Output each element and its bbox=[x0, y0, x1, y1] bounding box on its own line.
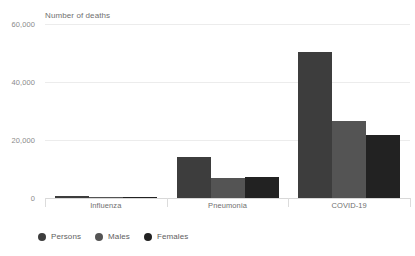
legend-label-males: Males bbox=[108, 232, 130, 241]
legend-marker-males-icon bbox=[95, 233, 103, 241]
x-label-influenza: Influenza bbox=[45, 201, 167, 210]
bar-chart: Number of deaths 020,00040,00060,000 Inf… bbox=[0, 0, 415, 256]
x-label-pneumonia: Pneumonia bbox=[167, 201, 289, 210]
x-label-covid-19: COVID-19 bbox=[288, 201, 410, 210]
bar-covid-19-persons[interactable] bbox=[298, 52, 332, 198]
legend-marker-females-icon bbox=[144, 233, 152, 241]
category-tick bbox=[410, 198, 411, 207]
bar-pneumonia-females[interactable] bbox=[245, 177, 279, 198]
legend-label-persons: Persons bbox=[51, 232, 81, 241]
bar-groups bbox=[45, 18, 410, 198]
bar-pneumonia-persons[interactable] bbox=[177, 157, 211, 198]
y-tick-label-0: 0 bbox=[0, 194, 35, 203]
bar-group-pneumonia bbox=[167, 18, 289, 198]
bar-covid-19-males[interactable] bbox=[332, 121, 366, 198]
legend-item-males[interactable]: Males bbox=[95, 232, 130, 241]
legend-item-persons[interactable]: Persons bbox=[38, 232, 81, 241]
chart-legend: Persons Males Females bbox=[38, 232, 188, 241]
y-tick-label-20000: 20,000 bbox=[0, 136, 35, 145]
legend-marker-persons-icon bbox=[38, 233, 46, 241]
bar-pneumonia-males[interactable] bbox=[211, 178, 245, 198]
bar-group-influenza bbox=[45, 18, 167, 198]
x-axis-labels: Influenza Pneumonia COVID-19 bbox=[45, 201, 410, 210]
y-tick-label-40000: 40,000 bbox=[0, 78, 35, 87]
y-tick-label-60000: 60,000 bbox=[0, 20, 35, 29]
legend-item-females[interactable]: Females bbox=[144, 232, 188, 241]
bar-covid-19-females[interactable] bbox=[366, 135, 400, 198]
legend-label-females: Females bbox=[157, 232, 188, 241]
bar-group-covid-19 bbox=[288, 18, 410, 198]
